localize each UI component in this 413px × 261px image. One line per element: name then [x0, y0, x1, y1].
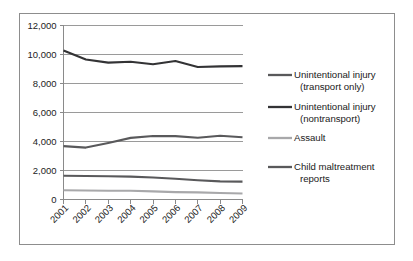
y-tick-label: 10,000 — [27, 49, 56, 60]
x-tick-label: 2006 — [160, 202, 183, 225]
legend-label-cont: (nontransport) — [300, 113, 360, 124]
y-tick-label: 2,000 — [33, 165, 57, 176]
x-tick-label: 2008 — [204, 202, 227, 225]
series-line — [64, 190, 243, 193]
legend-label: Unintentional injury — [294, 69, 376, 80]
y-tick-label: 6,000 — [33, 107, 57, 118]
x-tick-label: 2004 — [115, 202, 138, 225]
legend-label-cont: (transport only) — [300, 81, 365, 92]
legend-label-cont: reports — [300, 173, 330, 184]
y-tick-label: 12,000 — [27, 20, 56, 31]
x-tick-label: 2009 — [227, 202, 250, 225]
x-tick-label: 2002 — [70, 202, 93, 225]
x-tick-label: 2003 — [92, 202, 115, 225]
chart-figure: 12,00010,0008,0006,0004,0002,0000 200120… — [0, 0, 413, 261]
series-line — [64, 176, 243, 182]
x-tick-label: 2005 — [137, 202, 160, 225]
series-lines — [64, 50, 243, 193]
x-axis-labels: 200120022003200420052006200720082009 — [48, 202, 250, 225]
legend-label: Unintentional injury — [294, 101, 376, 112]
series-line — [64, 50, 243, 67]
x-tick-label: 2007 — [182, 202, 205, 225]
x-tick-label: 2001 — [48, 202, 71, 225]
grid-lines — [64, 26, 244, 200]
y-tick-label: 0 — [51, 194, 56, 205]
legend-label: Child maltreatment — [294, 161, 375, 172]
chart-legend: Unintentional injury(transport only)Unin… — [268, 69, 376, 184]
y-tick-label: 8,000 — [33, 78, 57, 89]
y-tick-label: 4,000 — [33, 136, 57, 147]
y-axis-ticks — [60, 26, 64, 200]
line-chart: 12,00010,0008,0006,0004,0002,0000 200120… — [0, 0, 413, 261]
y-axis-labels: 12,00010,0008,0006,0004,0002,0000 — [27, 20, 56, 205]
legend-label: Assault — [294, 132, 326, 143]
x-axis-ticks — [64, 200, 243, 204]
